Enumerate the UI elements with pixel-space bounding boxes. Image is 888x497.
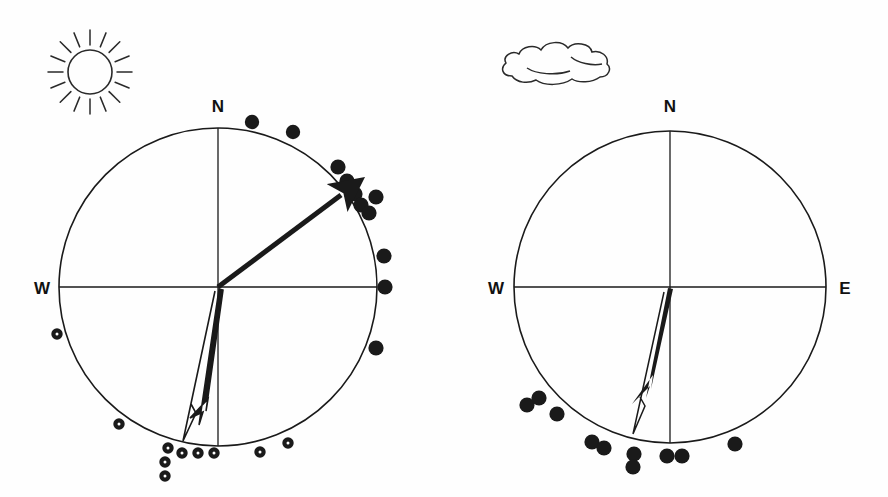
data-point-filled: [377, 279, 392, 294]
data-point-filled: [549, 406, 564, 421]
left-mean-vector-open: [183, 289, 223, 441]
data-point-open: [210, 449, 217, 456]
data-point-open: [194, 449, 201, 456]
data-point-filled: [674, 448, 689, 463]
data-point-filled: [368, 340, 383, 355]
data-point-open: [161, 458, 168, 465]
data-point-filled: [659, 448, 674, 463]
left-open-symbols: [53, 330, 291, 479]
data-point-open: [161, 472, 168, 479]
data-point-filled: [727, 436, 742, 451]
right-label-east: E: [839, 279, 850, 298]
circular-statistics-figure: N W: [0, 0, 888, 497]
data-point-open: [115, 420, 122, 427]
data-point-open: [53, 330, 60, 337]
right-label-west: W: [488, 279, 505, 298]
data-point-filled: [330, 159, 345, 174]
left-mean-vector-filled: [218, 195, 341, 287]
panel-left: N W: [34, 30, 393, 480]
data-point-open: [178, 449, 185, 456]
left-filled-symbols: [245, 115, 393, 356]
data-point-open: [256, 448, 263, 455]
data-point-filled: [361, 205, 376, 220]
data-point-filled: [596, 440, 611, 455]
panel-right: N W E: [488, 43, 851, 475]
data-point-open: [164, 444, 171, 451]
right-label-north: N: [664, 97, 676, 116]
figure-canvas: N W: [0, 0, 888, 497]
data-point-filled: [339, 173, 354, 188]
data-point-filled: [245, 115, 259, 129]
right-filled-symbols: [519, 390, 742, 474]
left-label-west: W: [34, 279, 51, 298]
data-point-filled: [531, 390, 546, 405]
sun-icon: [48, 30, 132, 114]
data-point-filled: [626, 446, 641, 461]
data-point-filled: [286, 125, 300, 139]
cloud-icon: [503, 43, 610, 85]
data-point-filled: [376, 248, 391, 263]
left-label-north: N: [212, 97, 224, 116]
data-point-filled: [625, 459, 640, 474]
data-point-filled: [368, 189, 383, 204]
data-point-open: [284, 439, 291, 446]
right-mean-vector-thin: [633, 292, 664, 434]
